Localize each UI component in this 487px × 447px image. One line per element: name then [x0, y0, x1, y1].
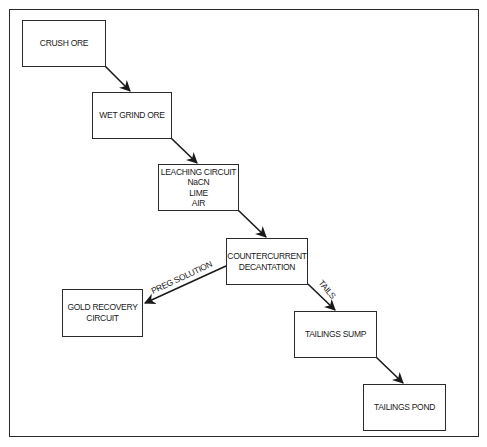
node-label-line2: CIRCUIT [86, 313, 118, 324]
node-label: LEACHING CIRCUIT [161, 167, 237, 178]
node-label: GOLD RECOVERY [67, 302, 137, 313]
node-tailings-sump: TAILINGS SUMP [294, 311, 377, 358]
node-leaching-circuit: LEACHING CIRCUIT NaCN LIME AIR [158, 164, 239, 211]
node-label: TAILINGS SUMP [305, 329, 366, 340]
node-wet-grind-ore: WET GRIND ORE [92, 92, 172, 139]
node-reagent-nacn: NaCN [188, 177, 210, 188]
node-label: CRUSH ORE [40, 38, 88, 49]
node-countercurrent-decantation: COUNTERCURRENT DECANTATION [226, 238, 308, 285]
node-reagent-air: AIR [192, 198, 205, 209]
node-gold-recovery-circuit: GOLD RECOVERY CIRCUIT [62, 289, 143, 337]
node-reagent-lime: LIME [189, 188, 208, 199]
node-label-line2: DECANTATION [239, 262, 295, 273]
node-label: COUNTERCURRENT [227, 251, 306, 262]
node-label: WET GRIND ORE [99, 110, 164, 121]
diagram-frame [9, 9, 479, 437]
node-label: TAILINGS POND [374, 402, 435, 413]
node-crush-ore: CRUSH ORE [22, 20, 106, 67]
node-tailings-pond: TAILINGS POND [363, 384, 446, 431]
